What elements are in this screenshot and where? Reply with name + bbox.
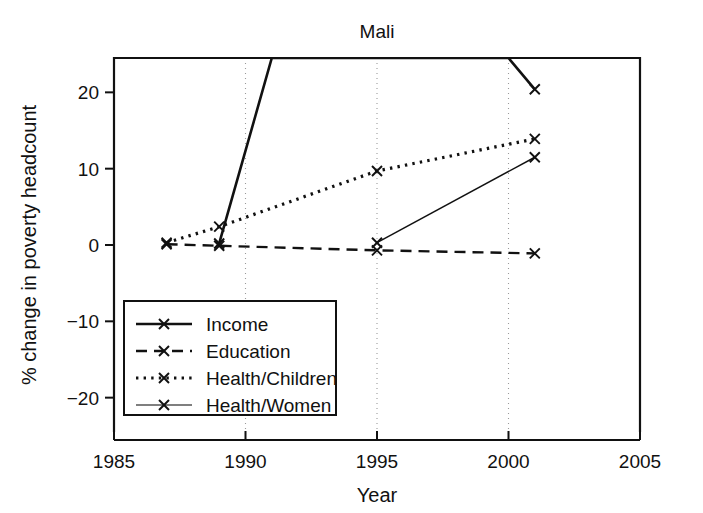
x-tick-label-1985: 1985 <box>93 451 135 472</box>
chart-background <box>0 0 703 513</box>
y-axis-title: % change in poverty headcount <box>18 104 40 385</box>
legend-label-3: Health/Women <box>206 395 331 416</box>
y-tick-label--10: −10 <box>67 311 99 332</box>
legend-label-1: Education <box>206 341 291 362</box>
chart-title: Mali <box>360 21 395 42</box>
chart-figure: Mali % change in poverty headcount Year … <box>0 0 703 513</box>
y-tick-label-10: 10 <box>78 159 99 180</box>
x-tick-label-2000: 2000 <box>487 451 529 472</box>
x-tick-label-1990: 1990 <box>224 451 266 472</box>
x-tick-label-2005: 2005 <box>619 451 661 472</box>
x-tick-label-1995: 1995 <box>356 451 398 472</box>
y-tick-label-0: 0 <box>88 235 99 256</box>
y-tick-label--20: −20 <box>67 388 99 409</box>
line-chart: Mali % change in poverty headcount Year … <box>0 0 703 513</box>
legend-label-2: Health/Children <box>206 368 337 389</box>
legend-label-0: Income <box>206 314 268 335</box>
chart-legend: IncomeEducationHealth/ChildrenHealth/Wom… <box>124 301 337 416</box>
y-tick-label-20: 20 <box>78 82 99 103</box>
x-axis-title: Year <box>357 484 398 506</box>
